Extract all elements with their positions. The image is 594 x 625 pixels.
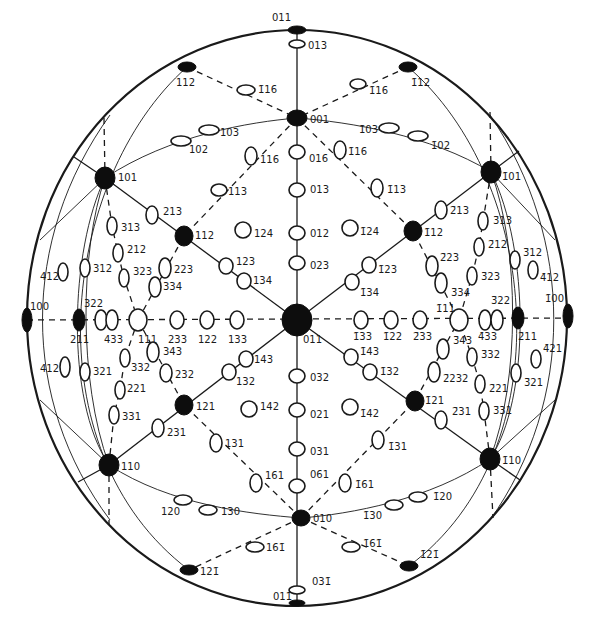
pole-p102: 102 <box>171 136 208 155</box>
open-pole-marker <box>149 277 161 297</box>
pole-label: 1̄33 <box>353 331 372 342</box>
open-pole-marker <box>171 136 191 146</box>
pole-label: 161 <box>265 470 284 481</box>
pole-p120: 120 <box>161 495 192 517</box>
open-pole-marker <box>289 40 305 48</box>
pole-p012: 012 <box>289 226 329 240</box>
pole-pm113: 1̄13 <box>371 179 406 197</box>
open-pole-marker <box>199 505 217 515</box>
pole-p023: 023 <box>289 256 329 271</box>
pole-label: 1̄61 <box>355 479 374 490</box>
pole-label: 2̄23 <box>440 252 459 263</box>
pole-label: 1̄13 <box>387 184 406 195</box>
filled-pole-marker <box>406 391 424 411</box>
pole-label: 1̄16 <box>369 85 388 96</box>
pole-label: 124 <box>254 228 273 239</box>
pole-pm161: 1̄61 <box>339 474 374 492</box>
open-pole-marker <box>350 79 366 89</box>
open-pole-marker <box>491 310 503 330</box>
open-pole-marker <box>115 381 125 399</box>
pole-label: 2̄21 <box>489 383 508 394</box>
filled-pole-marker <box>282 304 312 336</box>
pole-label: 103 <box>220 127 239 138</box>
pole-label: 313 <box>121 222 140 233</box>
pole-pm133: 1̄33 <box>353 311 372 342</box>
filled-pole-marker <box>400 561 418 571</box>
pole-pm412: 4̄12 <box>528 261 559 283</box>
open-pole-marker <box>200 311 214 329</box>
open-pole-marker <box>467 348 477 366</box>
pole-label: 011̄ <box>273 591 292 602</box>
pole-label: 100 <box>30 301 49 312</box>
pole-label: 3̄23 <box>481 271 500 282</box>
pole-label: 1̄22 <box>383 331 402 342</box>
pole-p113: 113 <box>211 184 247 197</box>
pole-label: 016 <box>309 153 328 164</box>
pole-label: 223 <box>174 264 193 275</box>
pole-label: 2̄33 <box>413 331 432 342</box>
open-pole-marker <box>235 222 251 238</box>
open-pole-marker <box>107 217 117 235</box>
pole-label: 1̄31 <box>388 441 407 452</box>
pole-label: 412 <box>40 271 59 282</box>
open-pole-marker <box>467 267 477 285</box>
pole-label: 3̄22 <box>491 295 510 306</box>
pole-label: 3̄34 <box>451 287 470 298</box>
pole-pm103: 1̄03 <box>359 123 399 135</box>
pole-label: 1̄16 <box>348 146 367 157</box>
pole-label: 1̄24 <box>360 226 379 237</box>
open-pole-marker <box>237 85 255 95</box>
pole-label: 231 <box>167 427 186 438</box>
pole-label: 3̄13 <box>493 215 512 226</box>
pole-p032: 032 <box>289 369 329 383</box>
pole-label: 332 <box>131 362 150 373</box>
open-pole-marker <box>219 258 233 274</box>
pole-label: 032 <box>310 372 329 383</box>
open-pole-marker <box>435 273 447 293</box>
pole-pm121: 1̄21 <box>406 391 444 411</box>
pole-label: 112 <box>176 77 195 88</box>
open-pole-marker <box>174 495 192 505</box>
pole-label: 221 <box>127 383 146 394</box>
open-pole-marker <box>384 311 398 329</box>
filled-pole-marker <box>288 26 306 34</box>
pole-p142: 142 <box>241 401 279 417</box>
pole-p231: 231 <box>152 419 186 438</box>
open-pole-marker <box>241 401 257 417</box>
pole-pm132: 1̄32 <box>363 364 399 380</box>
pole-pm323: 3̄23 <box>467 267 500 285</box>
pole-label: 116 <box>260 154 279 165</box>
pole-label: 212 <box>127 244 146 255</box>
pole-label: 1̄12 <box>411 77 430 88</box>
open-pole-marker <box>511 364 521 382</box>
pole-label: 1̄00 <box>545 293 564 304</box>
open-pole-marker <box>342 542 360 552</box>
pole-label: 031̄ <box>312 576 331 587</box>
open-pole-marker <box>479 310 491 330</box>
pole-p016: 016 <box>289 145 328 164</box>
pole-pm421: 4̄21 <box>531 343 562 368</box>
pole-label: 1̄21 <box>425 395 444 406</box>
open-pole-marker <box>146 206 158 224</box>
pole-label: 130 <box>221 506 240 517</box>
pole-pm233: 2̄33 <box>413 311 432 342</box>
filled-pole-marker <box>175 226 193 246</box>
pole-pm331: 3̄31 <box>479 402 512 420</box>
pole-label: 331 <box>122 411 141 422</box>
pole-pm134: 1̄34 <box>345 274 379 298</box>
pole-label: 1̄21̄ <box>420 549 439 560</box>
pole-p343: 343 <box>147 342 182 362</box>
open-pole-marker <box>510 251 520 269</box>
open-pole-marker <box>385 500 403 510</box>
pole-label: 2̄12 <box>488 239 507 250</box>
pole-label: 143 <box>254 354 273 365</box>
filled-pole-marker <box>481 161 501 183</box>
open-pole-marker <box>160 364 172 382</box>
pole-label: 121̄ <box>200 566 219 577</box>
pole-p116a: 1̄16 <box>237 84 277 95</box>
pole-label: 1̄20 <box>433 491 452 502</box>
open-pole-marker <box>113 244 123 262</box>
open-pole-marker <box>109 406 119 424</box>
pole-label: 3̄43 <box>453 335 472 346</box>
pole-label: 4̄12 <box>540 272 559 283</box>
